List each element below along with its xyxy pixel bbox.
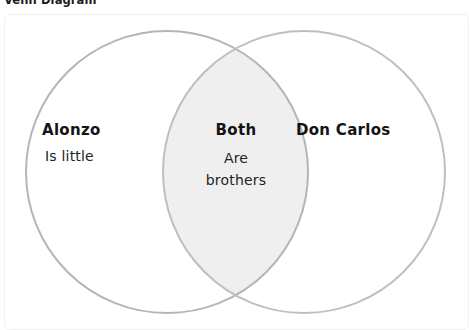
venn-region-center-line-1: Are <box>186 150 286 166</box>
venn-region-right: Don Carlos <box>296 121 446 139</box>
venn-region-center: Both Are brothers <box>186 121 286 188</box>
venn-region-right-heading: Don Carlos <box>296 121 446 139</box>
venn-region-left-heading: Alonzo <box>42 121 182 139</box>
venn-region-center-heading: Both <box>186 121 286 139</box>
venn-region-left: Alonzo Is little <box>42 121 182 164</box>
venn-region-left-line-1: Is little <box>45 148 182 164</box>
venn-region-center-line-2: brothers <box>186 172 286 188</box>
